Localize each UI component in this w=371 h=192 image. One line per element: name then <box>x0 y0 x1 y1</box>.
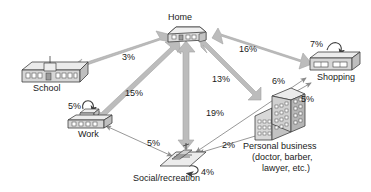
node-label-school: School <box>33 83 61 93</box>
node-label-social: Social/recreation <box>133 173 200 183</box>
flow-label-home-shopping: 16% <box>239 44 257 54</box>
self-loop-shopping <box>327 43 341 52</box>
node-label-work: Work <box>78 129 99 139</box>
diagram-graphics <box>0 0 371 192</box>
node-label-home: Home <box>168 12 192 22</box>
flow-arrow-social-home <box>177 41 195 150</box>
flow-label-personal-shopping: 5% <box>301 94 314 104</box>
node-label-shopping: Shopping <box>317 72 355 82</box>
node-label-personal-business-line3: lawyer, etc.) <box>262 163 310 173</box>
store-building-icon <box>310 52 360 70</box>
flow-label-work-home: 15% <box>125 88 143 98</box>
office-building-icon <box>255 88 305 140</box>
flow-label-work-loop: 5% <box>68 101 81 111</box>
node-label-personal-business-line2: (doctor, barber, <box>252 152 313 162</box>
self-loop-work <box>83 101 94 109</box>
flow-label-work-social: 5% <box>147 138 160 148</box>
house-icon <box>168 27 206 42</box>
flow-label-home-personal: 13% <box>212 74 230 84</box>
flow-label-shopping-loop: 7% <box>310 39 323 49</box>
diagram-canvas: Home School Work Social/recreation Shopp… <box>0 0 371 192</box>
flow-label-social-shopping: 6% <box>272 76 285 86</box>
flow-arrow-work-home <box>95 40 181 122</box>
flow-label-social-home: 19% <box>206 108 224 118</box>
flow-label-social-personal: 2% <box>222 140 235 150</box>
flow-label-social-loop: 4% <box>201 167 214 177</box>
node-label-personal-business-line1: Personal business <box>243 141 317 151</box>
flow-label-home-school: 3% <box>122 52 135 62</box>
school-building-icon <box>22 56 88 82</box>
flow-arrow-work-social <box>106 126 172 156</box>
